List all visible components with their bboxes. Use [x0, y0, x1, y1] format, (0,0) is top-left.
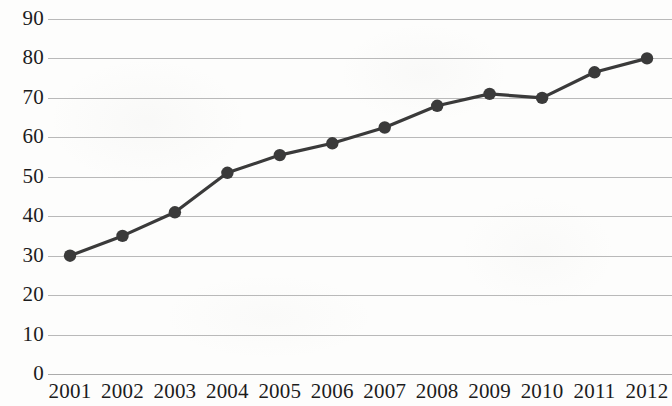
x-axis: 2001200220032004200520062007200820092010… — [0, 379, 672, 406]
x-tick-label: 2003 — [149, 379, 201, 404]
data-point-marker: 2011: 76.5 — [588, 66, 600, 78]
data-point-marker: 2003: 41 — [169, 206, 181, 218]
x-tick-label: 2007 — [359, 379, 411, 404]
y-tick-label: 30 — [0, 245, 44, 266]
y-tick-label: 10 — [0, 324, 44, 345]
data-point-marker: 2009: 71 — [483, 88, 495, 100]
x-tick-label: 2002 — [96, 379, 148, 404]
x-tick-label: 2009 — [464, 379, 516, 404]
y-tick-label: 90 — [0, 8, 44, 29]
y-axis: 0102030405060708090 — [0, 0, 44, 406]
plot-area: 2001: 302002: 352003: 412004: 512005: 55… — [48, 0, 672, 406]
y-tick-label: 80 — [0, 47, 44, 68]
data-point-marker: 2006: 58.5 — [326, 137, 338, 149]
data-point-marker: 2010: 70 — [536, 92, 548, 104]
y-tick-label: 70 — [0, 87, 44, 108]
y-tick-label: 40 — [0, 205, 44, 226]
x-tick-label: 2005 — [254, 379, 306, 404]
y-tick-label: 60 — [0, 126, 44, 147]
x-tick-label: 2004 — [201, 379, 253, 404]
x-tick-label: 2011 — [569, 379, 621, 404]
data-point-marker: 2002: 35 — [116, 230, 128, 242]
line-chart-figure: 0102030405060708090 2001: 302002: 352003… — [0, 0, 672, 406]
x-tick-label: 2012 — [621, 379, 672, 404]
data-point-marker: 2008: 68 — [431, 100, 443, 112]
data-point-marker: 2001: 30 — [64, 250, 76, 262]
data-point-marker: 2005: 55.5 — [274, 149, 286, 161]
data-point-marker: 2012: 80 — [641, 52, 653, 64]
data-series-line: 2001: 302002: 352003: 412004: 512005: 55… — [48, 0, 672, 406]
x-tick-label: 2010 — [516, 379, 568, 404]
data-point-marker: 2007: 62.5 — [379, 121, 391, 133]
data-point-marker: 2004: 51 — [221, 167, 233, 179]
x-tick-label: 2008 — [411, 379, 463, 404]
x-tick-label: 2006 — [306, 379, 358, 404]
x-tick-label: 2001 — [44, 379, 96, 404]
y-tick-label: 20 — [0, 284, 44, 305]
series-polyline — [70, 58, 647, 255]
y-tick-label: 50 — [0, 166, 44, 187]
